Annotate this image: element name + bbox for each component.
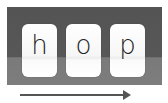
letter-tile-h: h [22, 24, 57, 77]
arrow-right-icon [20, 94, 124, 96]
tile-letter: p [119, 30, 136, 60]
tile-letter: h [31, 30, 47, 60]
letter-tile-p: p [110, 24, 145, 77]
arrow-head-icon [123, 90, 131, 100]
letter-tile-o: o [66, 24, 101, 77]
tile-letter: o [76, 30, 92, 60]
